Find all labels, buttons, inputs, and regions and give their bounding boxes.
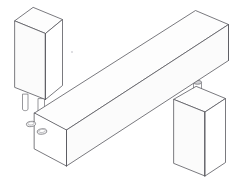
isometric-assembly-drawing xyxy=(0,0,232,185)
assembly-drawing-canvas xyxy=(0,0,232,185)
upper-post-surface-speck xyxy=(71,51,73,53)
lower-post xyxy=(174,80,226,176)
upper-post-left-face xyxy=(15,21,46,100)
lower-post-left-face xyxy=(174,100,205,177)
lower-post-right-face xyxy=(205,99,226,177)
upper-post-right-face xyxy=(46,20,63,100)
upper-dowel-left xyxy=(23,95,29,111)
